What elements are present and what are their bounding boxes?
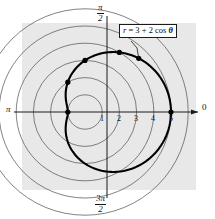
polar-graph-figure: r = 3 + 2 cos θ π 2 3π 2 π 0 1 2 3 4 5 bbox=[0, 0, 215, 219]
fraction-denominator: 2 bbox=[97, 14, 104, 23]
tick-label-2: 2 bbox=[117, 114, 121, 123]
equation-callout-label: r = 3 + 2 cos θ bbox=[119, 24, 177, 38]
axis-label-3pi-over-2: 3π 2 bbox=[95, 194, 106, 215]
fraction-pi-over-2: π 2 bbox=[97, 3, 104, 24]
equation-plus: + bbox=[140, 25, 149, 35]
axis-label-pi-over-2: π 2 bbox=[97, 3, 104, 24]
fraction-numerator: 3π bbox=[95, 194, 106, 203]
equation-cos: cos bbox=[153, 25, 169, 35]
equation-theta: θ bbox=[169, 25, 173, 35]
fraction-numerator: π bbox=[97, 3, 104, 12]
fraction-denominator: 2 bbox=[95, 205, 106, 214]
axis-label-zero: 0 bbox=[202, 103, 207, 112]
point-theta-pi2-r3 bbox=[65, 80, 70, 85]
point-theta-pi4 bbox=[82, 58, 87, 63]
polar-plot-canvas bbox=[0, 0, 215, 219]
tick-label-1: 1 bbox=[100, 114, 104, 123]
fraction-3pi-over-2: 3π 2 bbox=[95, 194, 106, 215]
point-theta-pi3-r4 bbox=[117, 50, 122, 55]
tick-label-4: 4 bbox=[151, 114, 155, 123]
tick-label-5: 5 bbox=[169, 114, 173, 123]
axis-label-pi: π bbox=[6, 105, 11, 114]
tick-label-3: 3 bbox=[134, 114, 138, 123]
point-theta-2pi3-r2 bbox=[65, 109, 70, 114]
equation-equals: = bbox=[126, 25, 135, 35]
